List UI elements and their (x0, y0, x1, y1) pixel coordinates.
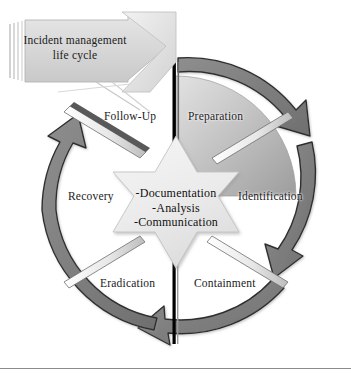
phase-label-preparation[interactable]: Preparation (188, 110, 243, 122)
central-star-text: -Documentation -Analysis -Communication (116, 186, 236, 230)
banner-title-line2: life cycle (20, 48, 130, 63)
core-item-documentation: -Documentation (116, 186, 236, 201)
banner-title-line1: Incident management (20, 33, 130, 48)
phase-label-identification[interactable]: Identification (238, 190, 303, 202)
phase-label-containment[interactable]: Containment (194, 277, 256, 289)
phase-label-follow-up[interactable]: Follow-Up (104, 110, 156, 122)
phase-label-recovery[interactable]: Recovery (68, 190, 114, 202)
core-item-analysis: -Analysis (116, 201, 236, 216)
banner-title: Incident management life cycle (20, 33, 130, 62)
page-rule (0, 368, 351, 369)
incident-management-life-cycle-figure: Incident management life cycle Follow-Up… (0, 0, 351, 382)
phase-label-eradication[interactable]: Eradication (100, 277, 155, 289)
core-item-communication: -Communication (116, 215, 236, 230)
